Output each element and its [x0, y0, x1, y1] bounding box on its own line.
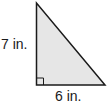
right-triangle	[37, 3, 106, 85]
height-label: 7 in.	[1, 37, 27, 51]
base-label: 6 in.	[55, 89, 81, 103]
